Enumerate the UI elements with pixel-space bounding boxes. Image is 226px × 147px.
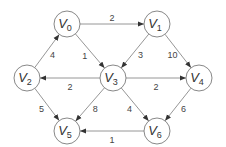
edge-v2-v5: 5 [35, 88, 59, 120]
edge-arrow [121, 34, 149, 68]
edge-v2-v0: 4 [35, 34, 60, 67]
edge-arrow [76, 88, 105, 121]
edge-v1-v3: 3 [121, 34, 149, 68]
graph-diagram: 2143102284561 V0V1V2V3V4V5V6 [0, 0, 226, 147]
edge-v0-v3: 1 [75, 34, 104, 68]
edge-arrow [75, 34, 104, 68]
node-v6: V6 [144, 118, 170, 144]
node-v2: V2 [14, 65, 40, 91]
edge-arrow [165, 88, 191, 121]
node-v3: V3 [100, 65, 126, 91]
edge-weight-label: 5 [39, 104, 44, 114]
edge-weight-label: 4 [50, 50, 55, 60]
edge-weight-label: 1 [109, 135, 114, 145]
edge-v1-v4: 10 [165, 34, 191, 67]
edge-weight-label: 2 [109, 13, 114, 23]
edge-v3-v6: 4 [121, 88, 148, 121]
edge-v3-v5: 8 [76, 88, 105, 121]
edge-v6-v5: 1 [80, 131, 144, 145]
edge-weight-label: 1 [82, 51, 87, 61]
edge-weight-label: 2 [67, 82, 72, 92]
node-v4: V4 [186, 65, 212, 91]
edge-arrow [35, 34, 60, 67]
node-v5: V5 [54, 118, 80, 144]
node-v1: V1 [144, 11, 170, 37]
edge-v3-v4: 2 [126, 78, 186, 92]
edge-v0-v1: 2 [80, 13, 144, 24]
edge-weight-label: 8 [93, 104, 98, 114]
edge-weight-label: 10 [167, 50, 177, 60]
edge-weight-label: 3 [138, 50, 143, 60]
edge-weight-label: 2 [153, 82, 158, 92]
edge-v3-v2: 2 [40, 78, 100, 92]
edge-arrow [121, 88, 148, 121]
edge-weight-label: 6 [181, 104, 186, 114]
edge-v4-v6: 6 [165, 88, 191, 121]
edge-weight-label: 4 [127, 104, 132, 114]
node-v0: V0 [54, 11, 80, 37]
